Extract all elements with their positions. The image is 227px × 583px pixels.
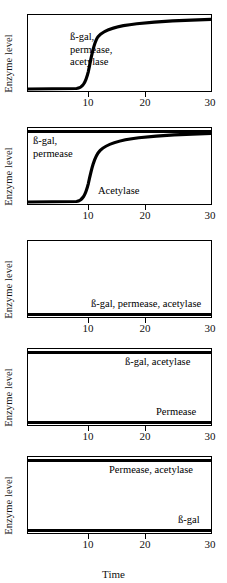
- y-axis-label-panel-2: Enzyme level: [0, 127, 16, 225]
- curve-panel-1: [28, 15, 211, 91]
- x-tick-label-20: 20: [140, 322, 151, 334]
- y-axis-label-text: Enzyme level: [3, 260, 14, 319]
- flat-line-panel-5-top: [28, 459, 211, 462]
- plot-box-panel-1: ß-gal, permease, acetylase: [27, 14, 212, 92]
- plot-box-panel-3: ß-gal, permease, acetylase: [27, 240, 212, 318]
- flat-line-panel-4-top: [28, 351, 211, 354]
- y-axis-label-panel-1: Enzyme level: [0, 14, 16, 112]
- x-tick-label-20: 20: [140, 96, 151, 108]
- x-tick-label-10: 10: [83, 96, 94, 108]
- annotation-panel-5-1: ß-gal: [178, 514, 200, 527]
- enzyme-level-figure: Enzyme level ß-gal, permease, acetylase …: [0, 0, 227, 583]
- annotation-panel-3-0: ß-gal, permease, acetylase: [91, 298, 201, 311]
- y-axis-label-panel-3: Enzyme level: [0, 240, 16, 338]
- annotation-panel-4-1: Permease: [156, 406, 196, 419]
- flat-line-panel-3-bottom: [28, 313, 211, 316]
- panel-4: Enzyme level ß-gal, acetylase Permease 1…: [0, 348, 227, 446]
- annotation-panel-2-0: ß-gal, permease: [33, 135, 73, 160]
- x-tick-label-10: 10: [83, 209, 94, 221]
- flat-line-panel-5-bottom: [28, 529, 211, 532]
- panel-2: Enzyme level ß-gal, permease Acetylase 1…: [0, 127, 227, 225]
- x-axis-label: Time: [0, 568, 227, 580]
- annotation-panel-5-0: Permease, acetylase: [109, 464, 193, 477]
- x-tick-label-20: 20: [140, 430, 151, 442]
- x-tick-label-30: 30: [205, 430, 216, 442]
- x-tick-label-10: 10: [83, 430, 94, 442]
- y-axis-label-text: Enzyme level: [3, 368, 14, 427]
- y-axis-label-panel-4: Enzyme level: [0, 348, 16, 446]
- x-tick-label-30: 30: [205, 209, 216, 221]
- y-axis-label-text: Enzyme level: [3, 476, 14, 535]
- plot-box-panel-2: ß-gal, permease Acetylase: [27, 127, 212, 205]
- panel-3: Enzyme level ß-gal, permease, acetylase …: [0, 240, 227, 338]
- panel-1: Enzyme level ß-gal, permease, acetylase …: [0, 14, 227, 112]
- panel-5: Enzyme level Permease, acetylase ß-gal 1…: [0, 456, 227, 554]
- y-axis-label-text: Enzyme level: [3, 147, 14, 206]
- x-axis-panel-5: 10 20 30: [27, 534, 212, 548]
- x-tick-label-30: 30: [205, 322, 216, 334]
- x-tick-label-20: 20: [140, 209, 151, 221]
- plot-box-panel-5: Permease, acetylase ß-gal: [27, 456, 212, 534]
- flat-line-panel-2-top: [28, 130, 211, 133]
- x-axis-panel-1: 10 20 30: [27, 92, 212, 106]
- annotation-panel-1-0: ß-gal, permease, acetylase: [70, 31, 112, 69]
- x-axis-panel-4: 10 20 30: [27, 426, 212, 440]
- x-tick-label-30: 30: [205, 538, 216, 550]
- y-axis-label-panel-5: Enzyme level: [0, 456, 16, 554]
- annotation-panel-2-1: Acetylase: [98, 185, 139, 198]
- x-tick-label-30: 30: [205, 96, 216, 108]
- annotation-panel-4-0: ß-gal, acetylase: [125, 356, 190, 369]
- x-axis-panel-3: 10 20 30: [27, 318, 212, 332]
- x-tick-label-10: 10: [83, 322, 94, 334]
- y-axis-label-text: Enzyme level: [3, 34, 14, 93]
- flat-line-panel-4-bottom: [28, 421, 211, 424]
- plot-box-panel-4: ß-gal, acetylase Permease: [27, 348, 212, 426]
- x-tick-label-20: 20: [140, 538, 151, 550]
- x-axis-panel-2: 10 20 30: [27, 205, 212, 219]
- x-tick-label-10: 10: [83, 538, 94, 550]
